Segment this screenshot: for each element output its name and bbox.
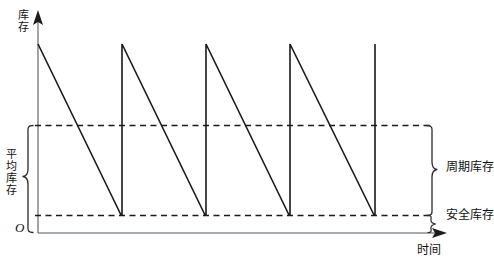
cycle-stock-label: 周期库存	[446, 161, 494, 174]
inventory-sawtooth-curve	[38, 44, 375, 215]
origin-label: O	[15, 221, 24, 235]
cycle-stock-brace	[427, 126, 437, 216]
average-stock-brace	[23, 126, 33, 233]
average-stock-label: 平 均 库 存	[4, 149, 19, 197]
x-axis-label: 时间	[417, 244, 441, 257]
y-axis-label: 库 存	[16, 10, 30, 34]
safety-stock-label: 安全库存	[446, 209, 494, 222]
